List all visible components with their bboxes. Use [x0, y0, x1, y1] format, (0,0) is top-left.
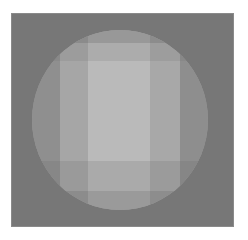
shaded-sphere: [32, 30, 208, 210]
sphere-band-lower-mid: [32, 191, 208, 210]
sphere-band-top-inner: [32, 43, 208, 61]
background-square: [11, 13, 234, 227]
sphere-band-top-outer: [32, 30, 208, 43]
sphere-band-lower-inner: [32, 161, 208, 191]
